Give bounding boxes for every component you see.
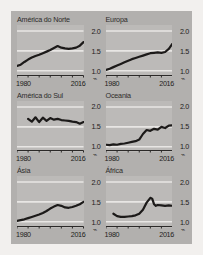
y-tick-label-2: 2.0 [173,28,189,35]
y-axis-break-icon: ⌁ [181,226,185,233]
plot-area [17,176,84,228]
x-axis-svg [17,150,84,153]
x-axis-svg [17,75,84,78]
plot-area [106,101,173,153]
panel-title: Ásia [17,166,30,175]
y-axis-labels: 2.0 1.5 1.0 ⌁ [173,176,189,234]
x-tick-label-start: 1980 [16,79,31,88]
y-axis-break-icon: ⌁ [93,151,97,158]
plot-canvas [106,176,173,228]
y-tick-label-1: 1.5 [85,123,101,130]
panel-title: América do Sul [17,91,63,100]
panel-asia: Ásia 2.0 1.5 1.0 ⌁ 1980 2016 [15,166,101,240]
x-axis-svg [106,226,173,229]
x-axis [106,150,173,153]
y-tick-label-0: 1.0 [85,68,101,75]
y-axis-break-icon: ⌁ [181,151,185,158]
y-tick-label-1: 1.5 [173,199,189,206]
y-axis-labels: 2.0 1.5 1.0 ⌁ [85,25,101,83]
x-tick-label-end: 2016 [159,79,174,88]
y-tick-label-1: 1.5 [173,48,189,55]
series-line [28,117,83,123]
plot-area [106,25,173,77]
plot-svg [17,101,84,153]
x-tick-label-end: 2016 [71,79,86,88]
series-line [113,198,172,217]
panel-america-do-sul: América do Sul 2.0 1.5 1.0 ⌁ 1980 2016 [15,91,101,165]
panel-europa: Europa 2.0 1.5 1.0 ⌁ 1980 2016 [104,15,190,89]
x-axis-svg [106,150,173,153]
plot-area [106,176,173,228]
plot-svg [17,176,84,228]
y-axis-break-icon: ⌁ [181,75,185,82]
x-axis-labels: 1980 2016 [17,154,84,163]
y-tick-label-2: 2.0 [173,103,189,110]
plot-canvas [17,25,84,77]
plot-svg [106,101,173,153]
y-tick-label-2: 2.0 [85,28,101,35]
y-tick-label-1: 1.5 [85,48,101,55]
panel-america-do-norte: América do Norte 2.0 1.5 1.0 ⌁ 1980 2016 [15,15,101,89]
y-tick-label-0: 1.0 [173,143,189,150]
y-axis-labels: 2.0 1.5 1.0 ⌁ [173,25,189,83]
panel-title: África [106,166,123,175]
x-axis [17,75,84,78]
y-tick-label-0: 1.0 [173,219,189,226]
x-tick-label-start: 1980 [16,154,31,163]
y-axis-labels: 2.0 1.5 1.0 ⌁ [173,101,189,159]
panel-title: América do Norte [17,15,70,24]
series-line [106,125,173,145]
x-tick-label-end: 2016 [71,154,86,163]
x-axis-labels: 1980 2016 [106,230,173,239]
plot-canvas [17,101,84,153]
y-axis-labels: 2.0 1.5 1.0 ⌁ [85,176,101,234]
y-tick-label-2: 2.0 [85,179,101,186]
x-tick-label-end: 2016 [71,230,86,239]
series-line [17,202,84,221]
x-axis [17,150,84,153]
x-axis-svg [106,75,173,78]
x-axis-labels: 1980 2016 [17,230,84,239]
plot-svg [106,176,173,228]
x-axis [17,226,84,229]
x-tick-label-start: 1980 [16,230,31,239]
panel-oceania: Oceania 2.0 1.5 1.0 ⌁ 1980 2016 [104,91,190,165]
x-tick-label-end: 2016 [159,154,174,163]
x-tick-label-end: 2016 [159,230,174,239]
plot-area [17,25,84,77]
x-tick-label-start: 1980 [105,79,120,88]
x-axis [106,75,173,78]
y-axis-break-icon: ⌁ [93,226,97,233]
plot-canvas [106,25,173,77]
plot-area [17,101,84,153]
y-tick-label-0: 1.0 [85,219,101,226]
y-tick-label-0: 1.0 [85,143,101,150]
x-axis-labels: 1980 2016 [17,79,84,88]
small-multiples-grid: América do Norte 2.0 1.5 1.0 ⌁ 1980 2016… [11,11,192,244]
x-axis-svg [17,226,84,229]
plot-svg [106,25,173,77]
y-axis-break-icon: ⌁ [93,75,97,82]
panel-title: Oceania [106,91,131,100]
y-tick-label-2: 2.0 [173,179,189,186]
y-tick-label-0: 1.0 [173,68,189,75]
plot-svg [17,25,84,77]
y-tick-label-1: 1.5 [173,123,189,130]
plot-canvas [17,176,84,228]
y-tick-label-1: 1.5 [85,199,101,206]
x-tick-label-start: 1980 [105,230,120,239]
series-line [106,44,173,70]
series-line [17,42,84,66]
y-tick-label-2: 2.0 [85,103,101,110]
panel-africa: África 2.0 1.5 1.0 ⌁ 1980 2016 [104,166,190,240]
panel-title: Europa [106,15,128,24]
x-axis-labels: 1980 2016 [106,154,173,163]
x-tick-label-start: 1980 [105,154,120,163]
y-axis-labels: 2.0 1.5 1.0 ⌁ [85,101,101,159]
x-axis-labels: 1980 2016 [106,79,173,88]
x-axis [106,226,173,229]
figure-container: América do Norte 2.0 1.5 1.0 ⌁ 1980 2016… [11,11,192,244]
plot-canvas [106,101,173,153]
